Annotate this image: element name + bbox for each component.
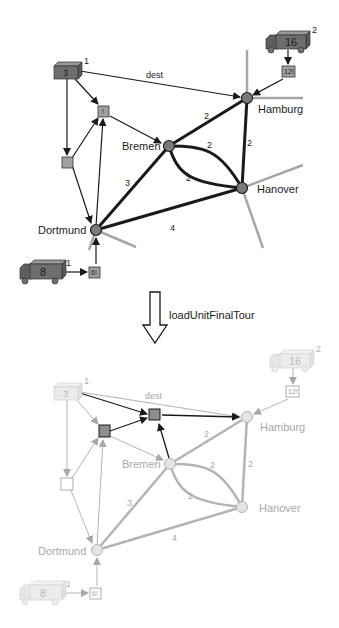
weight-bremen-hamburg: 2 (204, 111, 209, 121)
weight-dortmund-bremen: 3 (127, 498, 132, 508)
truck-8: 8 1 (20, 258, 71, 284)
intermediate-box (61, 478, 73, 490)
road-bremen-hamburg (169, 98, 247, 146)
road-dortmund-bremen (96, 146, 169, 230)
city-hanover: Hanover (237, 183, 299, 196)
truck-8-location-box: 6! (89, 267, 100, 278)
svg-text:Bremen: Bremen (122, 140, 161, 152)
svg-text:16: 16 (285, 36, 297, 48)
city-hamburg: Hamburg (242, 412, 306, 434)
svg-text:2: 2 (316, 344, 321, 354)
truck-16-location-box: 12! (282, 66, 295, 77)
road-dortmund-hanover (96, 188, 242, 230)
weight-hamburg-hanover: 2 (248, 459, 253, 469)
svg-text:2: 2 (312, 25, 317, 35)
tour-box: ! (98, 106, 109, 117)
dest-label: dest (146, 70, 164, 80)
dest-label: dest (145, 391, 163, 401)
city-dortmund: Dortmund (38, 545, 103, 558)
weight-bremen-hamburg: 2 (204, 429, 209, 439)
before-graph: 2 2 2 2 3 4 dest 3 1 (20, 25, 317, 284)
svg-text:16: 16 (289, 355, 301, 367)
weight-hamburg-hanover: 2 (247, 138, 252, 148)
svg-text:Hanover: Hanover (259, 502, 301, 514)
truck-8-location-box: 6! (90, 588, 101, 599)
weight-bremen-hanover-lower: 2 (188, 491, 193, 501)
svg-text:12!: 12! (288, 388, 298, 395)
roads (97, 417, 247, 550)
weight-dortmund-hanover: 4 (172, 533, 177, 543)
svg-text:8: 8 (40, 587, 46, 599)
city-hamburg: Hamburg (242, 93, 304, 116)
truck-16: 16 2 (266, 25, 317, 53)
svg-text:12!: 12! (284, 68, 294, 75)
truck-16: 16 2 (270, 344, 321, 372)
graph-transformation-diagram: 2 2 2 2 3 4 dest 3 1 (0, 0, 339, 628)
city-bremen: Bremen (122, 140, 175, 152)
container-label: 3 (63, 389, 68, 399)
weight-dortmund-hanover: 4 (170, 223, 175, 233)
weight-bremen-hanover-lower: 2 (186, 173, 191, 183)
svg-text:Hamburg: Hamburg (258, 103, 303, 115)
truck-16-location-box: 12! (286, 386, 299, 397)
svg-text:6!: 6! (92, 590, 98, 597)
intermediate-box (62, 157, 73, 168)
road-bremen-hanover-lower (169, 146, 242, 188)
svg-text:6!: 6! (91, 269, 97, 276)
weight-bremen-hanover-upper: 2 (210, 460, 215, 470)
svg-text:Dortmund: Dortmund (38, 224, 86, 236)
weight-dortmund-bremen: 3 (125, 178, 130, 188)
svg-text:!: ! (102, 108, 104, 115)
tour-box-1 (99, 425, 110, 437)
transformation-arrow (143, 292, 167, 343)
tour-box-2 (149, 409, 160, 420)
container-superscript: 1 (84, 56, 89, 66)
svg-text:8: 8 (40, 266, 46, 278)
svg-text:Hamburg: Hamburg (260, 421, 305, 433)
container-label: 3 (63, 68, 68, 78)
svg-text:Dortmund: Dortmund (38, 545, 86, 557)
roads (96, 98, 247, 230)
container-superscript: 1 (84, 376, 89, 386)
rule-name-label: loadUnitFinalTour (169, 309, 255, 321)
svg-text:Bremen: Bremen (122, 458, 161, 470)
svg-text:1: 1 (66, 579, 71, 589)
weight-bremen-hanover-upper: 2 (207, 140, 212, 150)
city-dortmund: Dortmund (38, 224, 102, 236)
container-box: 3 1 (54, 56, 89, 79)
svg-text:1: 1 (66, 258, 71, 268)
city-bremen: Bremen (122, 458, 176, 470)
city-hanover: Hanover (237, 502, 301, 515)
after-graph: 2 2 2 2 3 4 dest (20, 344, 321, 605)
container-box: 3 1 (54, 376, 89, 400)
truck-8: 8 1 (20, 579, 71, 605)
svg-text:Hanover: Hanover (257, 183, 299, 195)
